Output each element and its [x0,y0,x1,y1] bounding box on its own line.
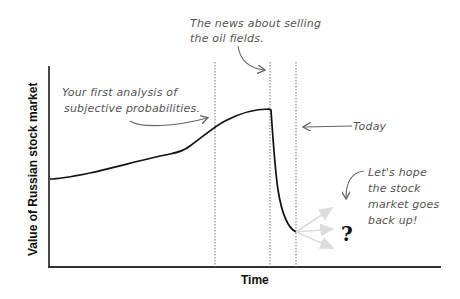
x-axis-label: Time [241,273,269,287]
first-analysis-label-line2: subjective probabilities. [64,102,200,115]
hope-label-line3: market goes [368,198,439,211]
hope-label-line4: back up! [368,214,418,227]
hope-label-line2: the stock [368,182,421,195]
hope-label-line1: Let's hope [368,166,427,179]
chart-canvas: ? Your first analysis of subjective prob… [0,0,460,299]
projection-arrows [296,208,333,248]
first-analysis-arrow-icon [130,118,207,126]
y-axis-label: Value of Russian stock market [26,83,40,256]
question-mark: ? [341,222,353,246]
today-label: Today [353,120,387,133]
projection-down-arrow [296,232,333,248]
stock-value-line [50,109,296,232]
hope-arrow-icon [346,171,364,198]
projection-flat-arrow [296,229,333,232]
news-label-line1: The news about selling [190,17,321,30]
first-analysis-label-line1: Your first analysis of [62,86,179,99]
projection-up-arrow [296,208,332,232]
news-label-line2: the oil fields. [190,32,264,45]
news-arrow-icon [238,46,264,70]
today-arrow-icon [304,126,352,127]
